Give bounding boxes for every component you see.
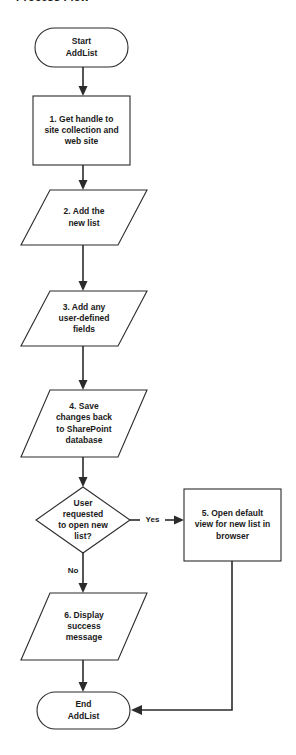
edge-step6-end-arrowhead xyxy=(79,682,88,692)
flowchart-graphics xyxy=(0,0,296,755)
edge-decision-step5-arrowhead xyxy=(174,516,184,525)
node-decision-shape xyxy=(36,487,130,553)
node-start-shape xyxy=(35,28,128,67)
node-step1-shape xyxy=(33,96,130,165)
edge-step2-step3-arrowhead xyxy=(79,281,88,291)
node-step2-shape xyxy=(21,190,147,245)
edge-step5-end xyxy=(142,561,232,710)
node-step4-shape xyxy=(21,390,147,457)
flowchart-canvas: Process Flow xyxy=(0,0,296,755)
node-step5-shape xyxy=(184,489,281,561)
edge-step1-step2-arrowhead xyxy=(79,180,88,190)
edge-step4-decision-arrowhead xyxy=(79,477,88,487)
edge-step5-end-arrowhead xyxy=(131,705,142,715)
node-step3-shape xyxy=(21,291,147,346)
node-end-shape xyxy=(37,692,130,729)
edge-label-no: No xyxy=(63,566,83,575)
node-step6-shape xyxy=(21,593,147,660)
edge-label-yes: Yes xyxy=(140,515,165,524)
edge-start-step1-arrowhead xyxy=(79,86,88,96)
edge-step3-step4-arrowhead xyxy=(79,380,88,390)
edge-decision-step6-arrowhead xyxy=(79,583,88,593)
